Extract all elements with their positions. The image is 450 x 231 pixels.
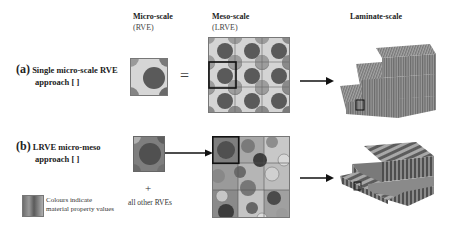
- meso-scale-subheader: (LRVE): [212, 23, 238, 33]
- all-other-rves-label: all other RVEs: [128, 198, 172, 207]
- row-a-micro-rve: [130, 58, 168, 96]
- row-a-marker: (a): [16, 62, 30, 76]
- row-a-line2: approach [ ]: [16, 77, 79, 87]
- legend-line2: material property values: [46, 205, 114, 213]
- row-a-meso-grid: [208, 37, 290, 113]
- row-b-line1: LRVE micro-meso: [33, 142, 101, 152]
- legend-swatch: [22, 195, 44, 217]
- micro-scale-subheader: (RVE): [133, 23, 154, 33]
- laminate-scale-header: Laminate-scale: [350, 12, 402, 22]
- row-a-line1: Single micro-scale RVE: [32, 65, 117, 75]
- row-b-meso-grid: [212, 136, 290, 218]
- row-b-arrow-icon: [300, 173, 334, 183]
- micro-scale-header: Micro-scale: [133, 12, 173, 22]
- row-b-marker: (b): [16, 139, 31, 153]
- row-b-laminate-block: [338, 140, 438, 210]
- row-a-arrow-icon: [300, 76, 334, 86]
- equals-sign: =: [180, 67, 189, 85]
- legend-line1: Colours indicate: [46, 196, 92, 204]
- plus-sign: +: [145, 182, 151, 194]
- row-b-label: (b) LRVE micro-meso approach [ ]: [16, 140, 101, 165]
- legend-text: Colours indicate material property value…: [46, 196, 114, 214]
- row-a-label: (a) Single micro-scale RVE approach [ ]: [16, 63, 118, 88]
- row-b-micro-rve: [133, 136, 165, 172]
- row-b-line2: approach [ ]: [16, 154, 79, 164]
- row-b-rve-arrow-icon: [165, 148, 213, 158]
- row-a-laminate-block: [338, 40, 438, 120]
- meso-scale-header: Meso-scale: [212, 12, 249, 22]
